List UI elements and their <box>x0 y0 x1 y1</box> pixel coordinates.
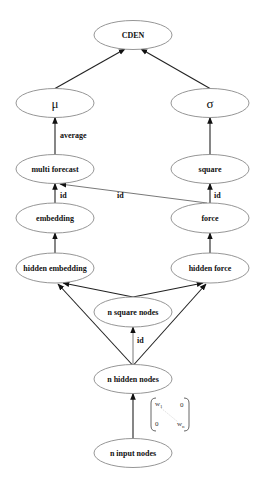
node-label: multi forecast <box>31 165 79 174</box>
node-square: square <box>171 155 249 184</box>
node-force: force <box>171 203 249 233</box>
matrix-diagonal <box>161 408 178 422</box>
node-label: n input nodes <box>110 449 156 458</box>
node-label: hidden embedding <box>23 264 86 273</box>
network-diagram: average id id id id CDENμσmulti forecast… <box>0 0 264 480</box>
node-embedding: embedding <box>16 203 94 233</box>
edge-force-to-multi-forecast <box>60 184 207 203</box>
edge-n-square-nodes-to-hidden-force <box>133 283 203 297</box>
weight-matrix: w1 0 0 wn <box>151 398 189 431</box>
node-label: embedding <box>36 214 74 223</box>
edge-label-id-embedding: id <box>60 191 67 200</box>
matrix-zero-bottom: 0 <box>155 420 159 428</box>
node-multi-forecast: multi forecast <box>16 155 94 184</box>
node-n-hidden-nodes: n hidden nodes <box>94 365 172 394</box>
node-sigma: σ <box>171 89 249 118</box>
matrix-w1: w1 <box>155 400 163 409</box>
edge-mu-to-cden <box>55 49 125 89</box>
node-label: n square nodes <box>108 308 159 317</box>
node-label: square <box>199 165 222 174</box>
node-cden: CDEN <box>94 21 172 50</box>
edge-n-square-nodes-to-hidden-embedding <box>63 283 133 297</box>
node-label: σ <box>206 96 213 111</box>
node-hidden-embedding: hidden embedding <box>16 253 94 283</box>
node-label: μ <box>52 96 59 111</box>
node-label: n hidden nodes <box>107 375 159 384</box>
node-label: force <box>201 214 219 223</box>
matrix-wn: wn <box>177 420 185 429</box>
node-label: CDEN <box>122 31 145 40</box>
edge-label-id-force: id <box>214 191 221 200</box>
edge-label-average: average <box>60 131 87 140</box>
node-n-square-nodes: n square nodes <box>94 297 172 327</box>
node-hidden-force: hidden force <box>171 253 249 283</box>
node-n-input-nodes: n input nodes <box>94 439 172 468</box>
node-mu: μ <box>16 89 94 118</box>
matrix-zero-top: 0 <box>180 401 184 409</box>
edge-sigma-to-cden <box>141 49 210 89</box>
edge-label-id-hidden: id <box>137 336 144 345</box>
edge-label-id-cross: id <box>117 191 124 200</box>
matrix-right-bracket <box>184 398 189 431</box>
node-label: hidden force <box>189 264 232 273</box>
